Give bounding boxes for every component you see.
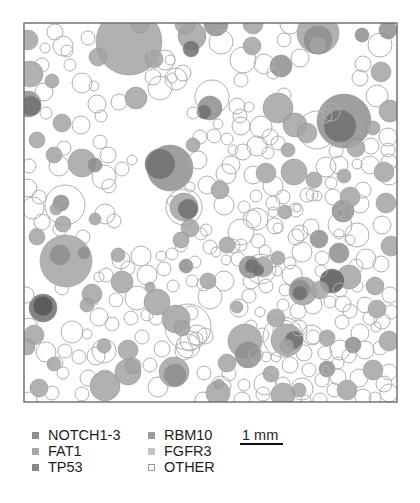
clone-circle-mutant: [371, 62, 391, 82]
clone-circle-mutant: [297, 123, 317, 143]
clone-circle-mutant: [381, 236, 401, 256]
clone-circle-mutant: [293, 286, 307, 300]
clone-circle-mutant: [309, 36, 327, 54]
clone-circle-mutant: [33, 296, 53, 316]
clone-circle-mutant: [366, 277, 384, 295]
clone-circle-mutant: [200, 273, 216, 289]
clone-circle-mutant: [281, 143, 295, 157]
clone-circle-mutant: [78, 247, 90, 259]
clone-circle-mutant: [178, 199, 198, 219]
clone-circle-mutant: [80, 298, 94, 312]
clone-circle-mutant: [145, 149, 175, 179]
clone-circle-mutant: [329, 243, 349, 263]
clone-circle-mutant: [211, 181, 229, 199]
clone-circle-mutant: [204, 12, 228, 36]
clone-circle-mutant: [89, 48, 107, 66]
clone-circle-mutant: [319, 330, 335, 346]
clone-circle-mutant: [280, 339, 294, 353]
clone-circle-mutant: [111, 248, 125, 262]
clone-circle-mutant: [256, 163, 276, 183]
clone-circle-mutant: [340, 187, 360, 207]
clone-circle-mutant: [347, 139, 365, 157]
clone-circle-mutant: [310, 230, 328, 248]
clone-circle-mutant: [131, 15, 149, 33]
clone-circle-mutant: [186, 138, 200, 152]
clone-circle-mutant: [311, 281, 329, 299]
clone-circle-mutant: [89, 213, 101, 225]
clone-circle-mutant: [97, 339, 111, 353]
clone-circle-mutant: [355, 28, 369, 42]
circle-packing-plot: [0, 0, 420, 503]
clone-circle-mutant: [46, 147, 62, 163]
clone-circle-mutant: [18, 30, 38, 50]
clone-circle-mutant: [252, 264, 264, 276]
clone-circle-mutant: [214, 379, 224, 389]
clone-circle-mutant: [45, 74, 59, 88]
clone-circle-mutant: [50, 245, 70, 265]
clone-circle-mutant: [218, 354, 236, 372]
clone-circle-mutant: [306, 172, 322, 188]
clone-circle-mutant: [183, 41, 199, 57]
clone-circle-mutant: [125, 358, 141, 374]
clone-circle-mutant: [175, 14, 195, 34]
clone-circle-mutant: [376, 193, 396, 213]
clone-circle-mutant: [366, 121, 380, 135]
clone-circle-mutant: [19, 339, 35, 355]
clone-circle-mutant: [243, 37, 261, 55]
clone-circle-mutant: [174, 320, 190, 336]
clone-circle-mutant: [243, 14, 263, 34]
clone-circle-mutant: [281, 159, 307, 185]
clone-circle-mutant: [55, 216, 71, 232]
clone-circle-mutant: [88, 158, 102, 172]
clone-circle-mutant: [17, 61, 43, 87]
clone-circle-mutant: [267, 309, 285, 327]
clone-circle-mutant: [292, 383, 306, 397]
clone-circle-mutant: [118, 340, 138, 360]
clone-circle-mutant: [379, 100, 401, 122]
clone-circle-mutant: [29, 132, 45, 148]
clone-circle-mutant: [50, 203, 62, 215]
clone-circle-mutant: [337, 380, 357, 400]
clone-circle-mutant: [235, 342, 261, 368]
clone-circle-mutant: [278, 205, 292, 219]
clone-circle-mutant: [145, 282, 155, 292]
clone-circle-mutant: [125, 87, 147, 109]
clone-circle-mutant: [263, 366, 279, 382]
clone-circle-mutant: [231, 301, 243, 313]
clone-circle-mutant: [53, 114, 71, 132]
clone-circle-mutant: [337, 169, 351, 183]
